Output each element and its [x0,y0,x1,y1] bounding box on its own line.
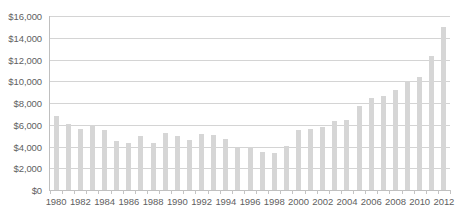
bar[interactable] [54,116,59,190]
x-axis: 1980198219841986198819901992199419961998… [50,196,450,210]
x-tick-label: 2008 [385,196,406,207]
bar[interactable] [381,96,386,190]
gridline [50,60,450,61]
plot-area [50,16,450,190]
x-tick [244,190,245,194]
x-tick-label: 1996 [240,196,261,207]
bar[interactable] [66,124,71,190]
x-tick-label: 2010 [409,196,430,207]
x-tick [98,190,99,194]
chart-title [0,0,456,1]
bar[interactable] [151,143,156,190]
x-tick [147,190,148,194]
x-tick-label: 2000 [288,196,309,207]
x-tick [220,190,221,194]
x-tick [74,190,75,194]
x-tick [292,190,293,194]
gridline [50,81,450,82]
x-tick [111,190,112,194]
x-tick [268,190,269,194]
x-tick-label: 1984 [94,196,115,207]
y-tick-label: $6,000 [14,119,42,130]
x-tick [123,190,124,194]
x-axis-ticks [50,190,450,195]
y-tick-label: $14,000 [8,32,42,43]
x-tick [135,190,136,194]
y-tick-label: $2,000 [14,163,42,174]
bar[interactable] [417,77,422,190]
bar[interactable] [296,130,301,190]
x-tick-label: 2004 [337,196,358,207]
y-axis: $16,000$14,000$12,000$10,000$8,000$6,000… [0,0,48,212]
x-tick [426,190,427,194]
gridline [50,125,450,126]
x-tick [402,190,403,194]
bar[interactable] [308,129,313,190]
x-tick [377,190,378,194]
x-tick [329,190,330,194]
x-tick-label: 1998 [264,196,285,207]
bar[interactable] [248,147,253,190]
bar[interactable] [441,27,446,190]
bar[interactable] [199,134,204,190]
bar[interactable] [357,106,362,190]
bar[interactable] [332,121,337,190]
y-tick-label: $4,000 [14,141,42,152]
y-tick-label: $8,000 [14,98,42,109]
bar[interactable] [138,136,143,190]
x-tick-label: 2006 [361,196,382,207]
x-tick-label: 2002 [312,196,333,207]
x-tick-label: 1980 [46,196,67,207]
x-tick [305,190,306,194]
x-tick [159,190,160,194]
y-tick-label: $0 [32,185,42,196]
x-tick [256,190,257,194]
x-tick [195,190,196,194]
x-tick-label: 1988 [143,196,164,207]
x-tick [414,190,415,194]
x-tick [62,190,63,194]
bar[interactable] [284,146,289,190]
x-tick [50,190,51,194]
bar[interactable] [344,120,349,190]
bar-chart: $16,000$14,000$12,000$10,000$8,000$6,000… [0,0,456,212]
gridline [50,103,450,104]
bar[interactable] [393,90,398,190]
y-tick-label: $10,000 [8,76,42,87]
x-tick-label: 1982 [70,196,91,207]
x-tick [280,190,281,194]
bar[interactable] [187,140,192,190]
bar[interactable] [114,141,119,190]
x-tick [341,190,342,194]
x-tick-label: 1990 [167,196,188,207]
bar[interactable] [90,125,95,190]
bar[interactable] [272,153,277,190]
bar[interactable] [260,152,265,190]
y-tick-label: $16,000 [8,11,42,22]
bar[interactable] [126,143,131,190]
bar[interactable] [163,133,168,190]
bar[interactable] [320,127,325,190]
bar[interactable] [369,98,374,190]
x-tick-label: 1994 [215,196,236,207]
bar[interactable] [102,130,107,190]
x-tick [86,190,87,194]
gridline [50,38,450,39]
x-tick-label: 1992 [191,196,212,207]
x-tick-label: 2012 [434,196,455,207]
gridline [50,16,450,17]
x-tick [438,190,439,194]
bar[interactable] [429,56,434,190]
bar[interactable] [211,135,216,190]
bar[interactable] [78,129,83,190]
y-tick-label: $12,000 [8,54,42,65]
x-tick [389,190,390,194]
x-tick-label: 1986 [118,196,139,207]
bar[interactable] [175,136,180,190]
x-tick [232,190,233,194]
bar[interactable] [405,81,410,190]
x-tick [353,190,354,194]
bar[interactable] [223,139,228,190]
x-tick [450,190,451,194]
bar[interactable] [235,148,240,190]
